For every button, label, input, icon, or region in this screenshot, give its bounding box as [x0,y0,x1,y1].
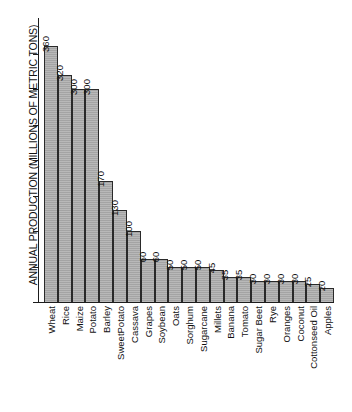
bar-value-label: 320 [54,65,65,81]
x-axis-line [38,302,334,303]
bar-value-label: 30 [275,273,286,284]
bar-slot: 50 [196,18,210,302]
y-axis-tick [33,231,38,232]
x-axis-label-slot: Banana [224,306,238,406]
x-axis-label-slot: Cassava [127,306,141,406]
x-axis-label-slot: Maize [72,306,86,406]
x-axis-label-slot: Oranges [279,306,293,406]
bar-value-label: 50 [178,259,189,270]
y-axis-tick [33,54,38,55]
bar-value-label: 300 [81,79,92,95]
x-axis-category-label: Oranges [280,306,291,342]
x-axis-category-label: Sugarcane [197,306,208,352]
x-axis-category-label: Cassava [128,306,139,343]
bar-value-label: 20 [316,281,327,292]
y-axis-tick [33,160,38,161]
x-axis-category-label: Maize [73,306,84,331]
bar-slot: 45 [210,18,224,302]
bar[interactable]: 50 [168,267,182,303]
x-axis-label-slot: Soybean [155,306,169,406]
bar[interactable]: 360 [44,46,58,302]
bar-slot: 30 [265,18,279,302]
bar-value-label: 25 [302,277,313,288]
x-axis-category-label: Grapes [142,306,153,337]
bar[interactable]: 35 [224,277,238,302]
bar-value-label: 50 [164,259,175,270]
bar-value-label: 30 [289,273,300,284]
x-axis-label-slot: Tomato [237,306,251,406]
x-axis-label-slot: Sugarcane [196,306,210,406]
bar[interactable]: 20 [320,288,334,302]
bar-value-label: 300 [68,79,79,95]
x-axis-category-label: Tomato [239,306,250,337]
bar-value-label: 170 [95,171,106,187]
y-axis-tick [33,302,38,303]
x-axis-label-slot: Coconut [293,306,307,406]
bar-slot: 170 [99,18,113,302]
x-axis-label-slot: Barley [99,306,113,406]
bar-slot: 300 [72,18,86,302]
bar-value-label: 30 [247,273,258,284]
bar-value-label: 35 [233,270,244,281]
x-axis-category-label: Banana [225,306,236,339]
x-axis-category-label: Potato [87,306,98,333]
bar-value-label: 130 [109,200,120,216]
bar-slot: 35 [224,18,238,302]
x-axis-category-label: Rye [266,306,277,323]
x-axis-label-slot: Grapes [141,306,155,406]
x-axis-category-label: Oats [170,306,181,326]
bar-chart: ANNUAL PRODUCTION (MILLIONS OF METRIC TO… [0,0,352,412]
x-axis-category-label: Barley [101,306,112,333]
bar-value-label: 100 [123,221,134,237]
x-axis-label-slot: Apples [320,306,334,406]
x-axis-category-labels: WheatRiceMaizePotatoBarleySweetPotatoCas… [44,306,334,406]
bar-value-label: 60 [150,252,161,263]
bar[interactable]: 300 [72,89,86,302]
bar-slot: 130 [113,18,127,302]
bar-value-label: 60 [137,252,148,263]
bar-value-label: 30 [261,273,272,284]
bar-slot: 300 [85,18,99,302]
y-axis-tick [33,89,38,90]
x-axis-category-label: Rice [59,306,70,325]
y-axis-tick [33,125,38,126]
bar-series: 3603203003001701301006060505050453535303… [44,18,334,302]
plot-area: 3603203003001701301006060505050453535303… [38,18,334,303]
bar-slot: 30 [279,18,293,302]
bar-slot: 30 [293,18,307,302]
x-axis-category-label: Soybean [156,306,167,344]
bar-value-label: 360 [40,36,51,52]
x-axis-label-slot: Wheat [44,306,58,406]
bar[interactable]: 300 [85,89,99,302]
x-axis-label-slot: Oats [168,306,182,406]
x-axis-label-slot: SweetPotato [113,306,127,406]
x-axis-label-slot: Potato [85,306,99,406]
x-axis-label-slot: Millets [210,306,224,406]
x-axis-label-slot: Rice [58,306,72,406]
bar[interactable]: 320 [58,75,72,302]
bar[interactable]: 100 [127,231,141,302]
x-axis-category-label: Apples [322,306,333,335]
x-axis-label-slot: Cottonseed Oil [306,306,320,406]
bar-slot: 30 [251,18,265,302]
bar-slot: 320 [58,18,72,302]
bar-slot: 25 [306,18,320,302]
x-axis-label-slot: Sugar Beet [251,306,265,406]
x-axis-label-slot: Sorghum [182,306,196,406]
y-axis-line [38,18,39,303]
x-axis-category-label: Millets [211,306,222,333]
y-axis-tick [33,267,38,268]
bar-value-label: 35 [219,270,230,281]
x-axis-category-label: Coconut [294,306,305,341]
y-axis-tick [33,196,38,197]
x-axis-label-slot: Rye [265,306,279,406]
x-axis-category-label: Wheat [45,306,56,333]
bar-slot: 35 [237,18,251,302]
bar[interactable]: 60 [141,259,155,302]
bar[interactable]: 50 [182,267,196,303]
bar-value-label: 50 [192,259,203,270]
bar-slot: 360 [44,18,58,302]
x-axis-category-label: Cottonseed Oil [308,306,319,369]
bar-slot: 20 [320,18,334,302]
bar-value-label: 45 [206,263,217,274]
